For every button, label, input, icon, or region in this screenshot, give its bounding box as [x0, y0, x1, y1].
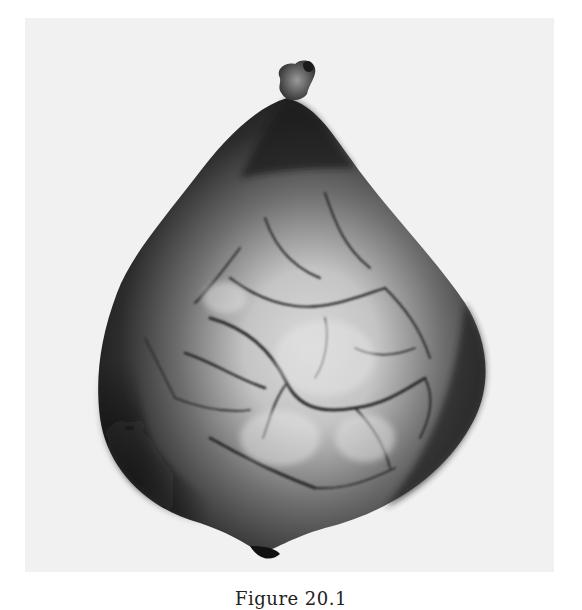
specimen-illustration [25, 18, 554, 572]
figure-caption: Figure 20.1 [0, 588, 582, 610]
specimen-photo [25, 18, 554, 572]
